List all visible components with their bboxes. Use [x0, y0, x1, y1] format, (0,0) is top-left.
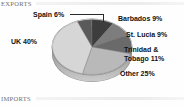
pie-label-other: Other 25% [120, 70, 155, 79]
exports-section-heading: EXPORTS [1, 0, 32, 7]
imports-section-heading: IMPORTS [1, 95, 31, 102]
exports-heading-rule [36, 2, 184, 5]
pie-slice-group [52, 19, 131, 74]
pie-label-barbados: Barbados 9% [118, 15, 162, 24]
pie-label-uk: UK 40% [11, 38, 37, 47]
imports-heading-rule [36, 97, 184, 100]
pie-label-st-lucia: St. Lucia 9% [126, 31, 167, 40]
pie-label-trinidad-tobago-line2: Tobago 11% [124, 55, 164, 62]
spain-leader-line [70, 14, 104, 22]
pie-label-trinidad-tobago: Trinidad & Tobago 11% [124, 46, 176, 63]
pie-label-trinidad-tobago-line1: Trinidad & [124, 46, 158, 53]
exports-pie-chart-figure: EXPORTS Spain 6% Barbados 9% St. Lucia 9… [0, 0, 185, 107]
pie-top-face [52, 19, 132, 75]
pie-label-spain: Spain 6% [33, 11, 64, 20]
